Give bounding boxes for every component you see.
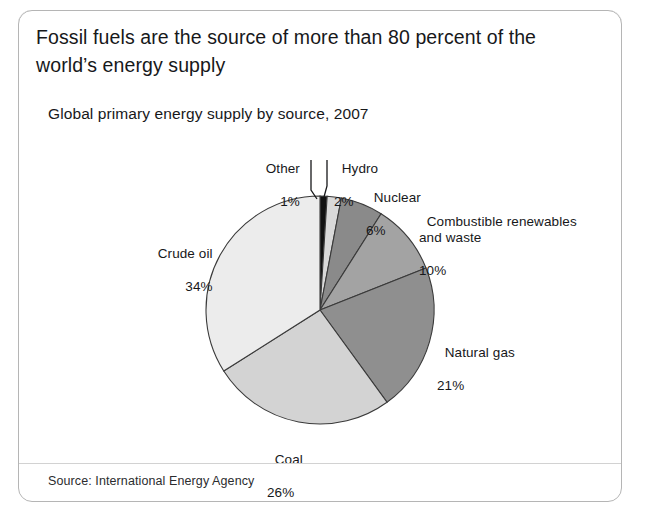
slice-label-crude-oil-name: Crude oil	[158, 246, 213, 261]
slice-label-other-pct: 1%	[258, 194, 300, 211]
slice-label-crude-oil-pct: 34%	[150, 279, 213, 296]
source-note: Source: International Energy Agency	[48, 474, 254, 488]
slice-label-crude-oil: Crude oil 34%	[150, 229, 213, 312]
source-divider	[19, 463, 621, 464]
chart-title: Global primary energy supply by source, …	[48, 105, 369, 123]
slice-label-other-name: Other	[266, 161, 300, 176]
slice-label-coal-name: Coal	[275, 452, 303, 467]
page-title: Fossil fuels are the source of more than…	[36, 23, 596, 79]
slice-label-nuclear-name: Nuclear	[374, 190, 421, 205]
slice-label-combustible-renewables-pct: 10%	[419, 263, 577, 280]
slice-label-combustible-renewables: Combustible renewables and waste 10%	[419, 197, 577, 296]
slice-label-combustible-renewables-name: Combustible renewables and waste	[419, 214, 577, 246]
slice-label-coal-pct: 26%	[267, 485, 303, 502]
slice-label-nuclear: Nuclear 6%	[366, 173, 421, 256]
slice-label-natural-gas-name: Natural gas	[445, 345, 515, 360]
slice-label-natural-gas: Natural gas 21%	[437, 328, 515, 411]
slice-label-coal: Coal 26%	[267, 435, 303, 518]
slice-label-nuclear-pct: 6%	[366, 223, 421, 240]
slice-label-other: Other 1%	[258, 144, 300, 227]
slice-label-natural-gas-pct: 21%	[437, 378, 515, 395]
